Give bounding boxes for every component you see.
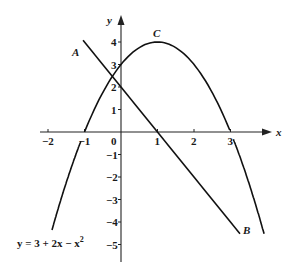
coordinate-graph: −2−101234321−1−2−3−4−5 x y C A B y = 3 +…	[0, 0, 292, 278]
x-tick-label: −2	[42, 135, 54, 147]
x-tick-label: 2	[191, 135, 197, 147]
x-axis-label: x	[275, 126, 282, 138]
label-a: A	[71, 46, 79, 58]
parabola-curve-c	[85, 42, 230, 132]
x-axis-arrow-icon	[262, 129, 272, 136]
label-b: B	[242, 224, 250, 236]
label-c: C	[153, 27, 161, 39]
y-tick-label: 3	[111, 59, 117, 71]
x-tick-label: 0	[111, 135, 117, 147]
y-tick-label: 1	[111, 104, 117, 116]
y-tick-label: 2	[111, 81, 117, 93]
y-tick-label: −3	[106, 194, 118, 206]
equation-label: y = 3 + 2x − x2	[17, 235, 84, 249]
x-tick-label: 3	[228, 135, 234, 147]
y-axis-arrow-icon	[118, 15, 125, 25]
y-tick-label: −2	[106, 171, 118, 183]
parabola-curve-c-left-branch	[52, 141, 81, 230]
y-tick-label: −1	[106, 149, 118, 161]
parabola-curve-c-right-branch	[233, 139, 264, 234]
y-tick-label: 4	[111, 36, 117, 48]
y-tick-label: −4	[106, 216, 118, 228]
x-tick-label: −1	[79, 135, 91, 147]
y-tick-label: −5	[106, 239, 118, 251]
x-tick-label: 1	[155, 135, 161, 147]
tick-marks	[48, 42, 231, 245]
y-axis-label: y	[105, 14, 112, 26]
tick-labels: −2−101234321−1−2−3−4−5	[42, 36, 234, 251]
